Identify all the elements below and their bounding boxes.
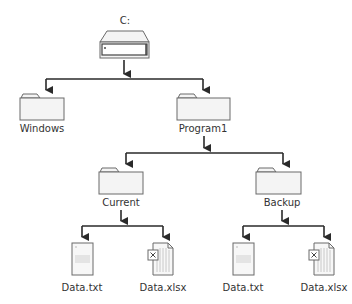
file-label: Data.xlsx: [301, 282, 348, 293]
root-label: C:: [120, 15, 130, 26]
connector-current: [82, 210, 163, 237]
folder-node-windows[interactable]: Windows: [20, 94, 65, 134]
folder-icon: [20, 94, 64, 120]
folder-icon: [256, 168, 301, 194]
folder-icon: [177, 94, 230, 120]
folder-node-backup[interactable]: Backup: [256, 168, 301, 208]
directory-tree-diagram: C: Windows Program1: [0, 0, 352, 304]
hard-drive-icon: [100, 31, 149, 58]
file-node-backup-data-txt[interactable]: Data.txt: [223, 243, 264, 293]
file-node-current-data-txt[interactable]: Data.txt: [62, 243, 103, 293]
text-document-icon: [72, 243, 93, 275]
root-node[interactable]: C:: [100, 15, 149, 58]
spreadsheet-document-icon: [148, 243, 173, 275]
file-node-backup-data-xlsx[interactable]: Data.xlsx: [301, 243, 348, 293]
folder-node-current[interactable]: Current: [99, 168, 143, 208]
folder-label: Current: [102, 197, 140, 208]
text-document-icon: [233, 243, 254, 275]
connector-root: [46, 60, 203, 90]
connector-backup: [243, 210, 324, 237]
connector-program1: [126, 136, 283, 164]
folder-label: Program1: [179, 123, 228, 134]
folder-icon: [99, 168, 143, 194]
file-label: Data.xlsx: [140, 282, 187, 293]
folder-label: Windows: [20, 123, 65, 134]
folder-label: Backup: [264, 197, 301, 208]
file-label: Data.txt: [62, 282, 103, 293]
file-label: Data.txt: [223, 282, 264, 293]
file-node-current-data-xlsx[interactable]: Data.xlsx: [140, 243, 187, 293]
spreadsheet-document-icon: [309, 243, 334, 275]
folder-node-program1[interactable]: Program1: [177, 94, 230, 134]
